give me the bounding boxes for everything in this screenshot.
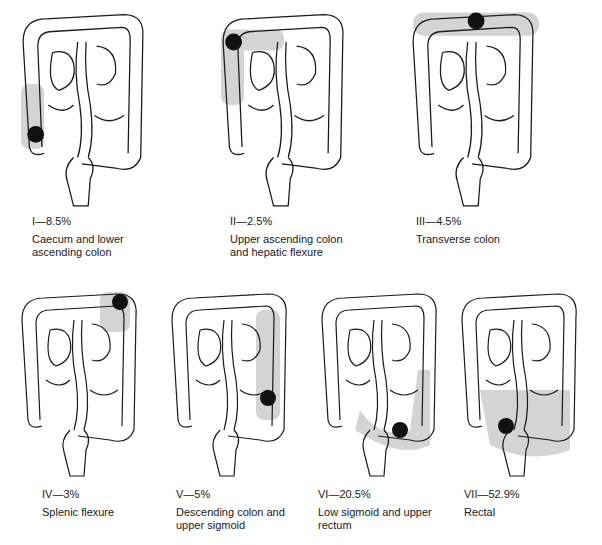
site-label: Rectal xyxy=(464,506,594,519)
colon-diagram-splenic xyxy=(0,280,150,480)
site-label: Upper ascending colon and hepatic flexur… xyxy=(230,233,360,259)
incidence-label: V—5% xyxy=(176,488,306,501)
panel-III xyxy=(390,0,590,200)
panel-IV xyxy=(0,280,150,480)
colon-diagram-descending xyxy=(150,280,300,480)
caption-II: II—2.5% Upper ascending colon and hepati… xyxy=(230,215,360,259)
colon-diagram-caecum xyxy=(0,0,200,200)
panel-I xyxy=(0,0,200,200)
panel-VI xyxy=(300,280,450,480)
incidence-label: VI—20.5% xyxy=(318,488,448,501)
colon-diagram-rectal xyxy=(440,280,590,480)
site-label: Splenic flexure xyxy=(42,506,172,519)
colon-diagram-sigmoid xyxy=(300,280,450,480)
caption-IV: IV—3% Splenic flexure xyxy=(42,488,172,519)
caption-VII: VII—52.9% Rectal xyxy=(464,488,594,519)
incidence-label: II—2.5% xyxy=(230,215,360,228)
caption-V: V—5% Descending colon and upper sigmoid xyxy=(176,488,306,532)
caption-VI: VI—20.5% Low sigmoid and upper rectum xyxy=(318,488,448,532)
site-label: Descending colon and upper sigmoid xyxy=(176,506,306,532)
site-label: Low sigmoid and upper rectum xyxy=(318,506,448,532)
incidence-label: I—8.5% xyxy=(32,215,162,228)
site-label: Caecum and lower ascending colon xyxy=(32,233,162,259)
incidence-label: III—4.5% xyxy=(416,215,546,228)
caption-III: III—4.5% Transverse colon xyxy=(416,215,546,246)
incidence-label: IV—3% xyxy=(42,488,172,501)
panel-VII xyxy=(440,280,590,480)
incidence-label: VII—52.9% xyxy=(464,488,594,501)
colon-diagram-transverse xyxy=(390,0,590,200)
panel-V xyxy=(150,280,300,480)
site-label: Transverse colon xyxy=(416,233,546,246)
colon-diagram-hepatic xyxy=(200,0,400,200)
panel-II xyxy=(200,0,400,200)
caption-I: I—8.5% Caecum and lower ascending colon xyxy=(32,215,162,259)
